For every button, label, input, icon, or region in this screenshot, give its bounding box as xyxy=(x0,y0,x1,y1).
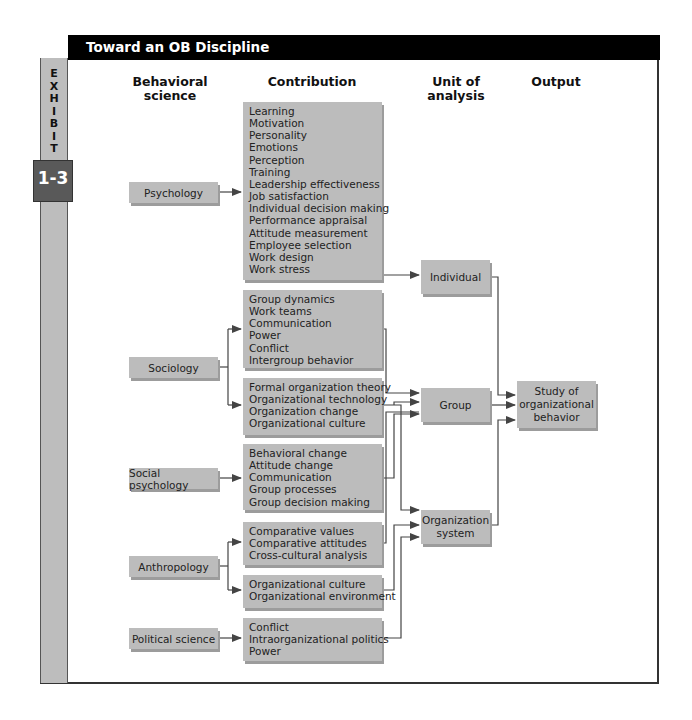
contribution-item: Intraorganizational politics xyxy=(249,633,382,645)
contribution-item: Group dynamics xyxy=(249,293,382,305)
unit-label: Group xyxy=(440,399,472,412)
contribution-item: Leadership effectiveness xyxy=(249,178,382,190)
unit-box-group: Group xyxy=(421,388,490,422)
contribution-item: Communication xyxy=(249,471,382,483)
contribution-item: Power xyxy=(249,645,382,657)
contribution-item: Comparative values xyxy=(249,525,382,537)
contribution-item: Perception xyxy=(249,154,382,166)
contribution-item: Cross-cultural analysis xyxy=(249,549,382,561)
contribution-box-political-science: ConflictIntraorganizational politicsPowe… xyxy=(243,618,382,661)
contribution-item: Power xyxy=(249,329,382,341)
contribution-item: Attitude change xyxy=(249,459,382,471)
contribution-item: Group decision making xyxy=(249,496,382,508)
contribution-item: Motivation xyxy=(249,117,382,129)
contribution-item: Employee selection xyxy=(249,239,382,251)
contribution-item: Comparative attitudes xyxy=(249,537,382,549)
output-box-study-of-ob: Study of organizational behavior xyxy=(517,381,596,428)
source-box-psychology: Psychology xyxy=(129,182,218,203)
contribution-item: Organizational technology xyxy=(249,393,382,405)
contribution-item: Intergroup behavior xyxy=(249,354,382,366)
source-label: Anthropology xyxy=(138,561,208,573)
contribution-item: Learning xyxy=(249,105,382,117)
contribution-item: Conflict xyxy=(249,342,382,354)
contribution-item: Emotions xyxy=(249,141,382,153)
source-label: Social psychology xyxy=(129,467,218,491)
source-label: Political science xyxy=(132,633,215,645)
contribution-box-psychology: LearningMotivationPersonalityEmotionsPer… xyxy=(243,102,382,280)
output-label: Study of organizational behavior xyxy=(519,385,594,424)
contribution-item: Work stress xyxy=(249,263,382,275)
contribution-item: Conflict xyxy=(249,621,382,633)
contribution-item: Behavioral change xyxy=(249,447,382,459)
contribution-item: Attitude measurement xyxy=(249,227,382,239)
contribution-box-anthropology-2: Organizational cultureOrganizational env… xyxy=(243,575,382,608)
source-box-sociology: Sociology xyxy=(129,357,218,378)
contribution-item: Organizational culture xyxy=(249,578,382,590)
contribution-item: Personality xyxy=(249,129,382,141)
contribution-item: Group processes xyxy=(249,483,382,495)
unit-label: Individual xyxy=(430,271,481,284)
contribution-box-social-psychology: Behavioral changeAttitude changeCommunic… xyxy=(243,444,382,510)
contribution-item: Formal organization theory xyxy=(249,381,382,393)
contribution-item: Individual decision making xyxy=(249,202,382,214)
source-box-anthropology: Anthropology xyxy=(129,556,218,577)
contribution-item: Organization change xyxy=(249,405,382,417)
contribution-item: Performance appraisal xyxy=(249,214,382,226)
source-box-political-science: Political science xyxy=(129,628,218,649)
unit-label: Organization system xyxy=(422,514,489,540)
contribution-item: Training xyxy=(249,166,382,178)
contribution-item: Communication xyxy=(249,317,382,329)
source-box-social-psychology: Social psychology xyxy=(129,468,218,489)
contribution-box-anthropology-1: Comparative valuesComparative attitudesC… xyxy=(243,522,382,565)
unit-box-organization-system: Organization system xyxy=(421,510,490,544)
source-label: Psychology xyxy=(144,187,203,199)
source-label: Sociology xyxy=(148,362,198,374)
contribution-item: Work design xyxy=(249,251,382,263)
contribution-box-sociology-1: Group dynamicsWork teamsCommunicationPow… xyxy=(243,290,382,368)
contribution-item: Job satisfaction xyxy=(249,190,382,202)
contribution-box-sociology-2: Formal organization theoryOrganizational… xyxy=(243,378,382,435)
unit-box-individual: Individual xyxy=(421,260,490,294)
contribution-item: Organizational environment xyxy=(249,590,382,602)
contribution-item: Organizational culture xyxy=(249,417,382,429)
contribution-item: Work teams xyxy=(249,305,382,317)
